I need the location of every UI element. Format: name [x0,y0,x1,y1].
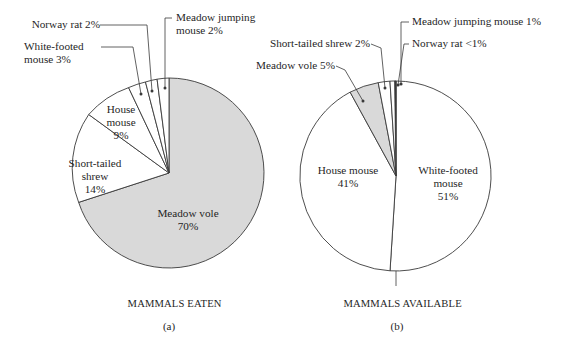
label-house-mouse-b-line2: 41% [306,177,390,190]
label-meadow-jumping-mouse-a-line1: Meadow jumping [176,11,286,24]
label-white-footed-mouse-b-line1: White-footed [406,164,490,177]
label-meadow-jumping-mouse-a-line2: mouse 2% [176,24,286,37]
label-short-tailed-shrew-b: Short-tailed shrew 2% [252,37,370,50]
label-meadow-vole-a-line2: 70% [140,220,236,233]
label-white-footed-mouse-a-line2: mouse 3% [24,53,104,66]
caption-mammals-available-sub: (b) [319,320,475,332]
label-meadow-jumping-mouse-b: Meadow jumping mouse 1% [412,15,582,28]
caption-mammals-available: MAMMALS AVAILABLE (b) [319,287,475,337]
caption-mammals-available-title: MAMMALS AVAILABLE [343,298,461,309]
label-norway-rat-a: Norway rat 2% [2,18,100,31]
label-house-mouse-a-line1: House [95,103,147,116]
label-house-mouse-b-line1: House mouse [306,164,390,177]
label-short-tailed-shrew-a-line3: 14% [57,183,133,196]
label-house-mouse-a-line3: 9% [95,129,147,142]
label-meadow-vole-a-line1: Meadow vole [140,207,236,220]
label-white-footed-mouse-b-line3: 51% [406,190,490,203]
caption-mammals-eaten-sub: (a) [99,320,239,332]
caption-mammals-eaten-title: MAMMALS EATEN [128,298,222,309]
label-norway-rat-b: Norway rat <1% [412,37,562,50]
label-short-tailed-shrew-a-line2: shrew [57,170,133,183]
label-white-footed-mouse-b-line2: mouse [406,177,490,190]
label-white-footed-mouse-a-line1: White-footed [24,40,104,53]
label-meadow-vole-b: Meadow vole 5% [246,59,335,72]
caption-mammals-eaten: MAMMALS EATEN (a) [99,287,239,337]
label-short-tailed-shrew-a-line1: Short-tailed [57,157,133,170]
label-house-mouse-a-line2: mouse [95,116,147,129]
